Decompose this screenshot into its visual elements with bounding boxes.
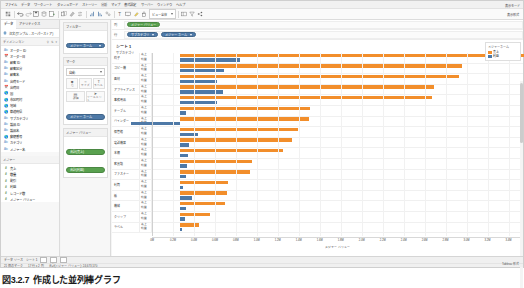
measure-label: 利益 (140, 132, 152, 137)
fix-axes-icon[interactable] (140, 10, 148, 19)
menu-item-dashboard[interactable]: ダッシュボード (55, 1, 80, 9)
presentation-mode-icon[interactable] (124, 10, 132, 19)
save-icon[interactable] (32, 10, 40, 19)
menu-item-server[interactable]: サーバー (139, 1, 155, 9)
bar[interactable] (180, 96, 432, 99)
bar[interactable] (180, 149, 283, 152)
x-axis-tick: 3.2M (485, 239, 491, 242)
bar[interactable] (180, 101, 217, 104)
bar[interactable] (180, 117, 309, 120)
bar[interactable] (180, 69, 224, 72)
bar[interactable] (180, 217, 185, 220)
measure-values-pill[interactable]: 合計(売上) (66, 149, 105, 155)
redo-icon[interactable] (24, 10, 32, 19)
bar[interactable] (180, 164, 187, 167)
bar[interactable] (180, 107, 310, 110)
show-cards-icon[interactable] (180, 10, 188, 19)
marks-tooltip-button[interactable]: ➤ ツールヒント (86, 91, 105, 102)
new-story-icon[interactable] (60, 257, 67, 263)
bar[interactable] (180, 213, 210, 216)
bar[interactable] (180, 191, 227, 194)
sort-icon[interactable]: ⇅ (51, 40, 54, 44)
columns-pill[interactable]: メジャー バリュー (127, 22, 160, 28)
group-members-icon[interactable] (104, 10, 112, 19)
marks-detail-button[interactable]: ▤ 詳細 (66, 91, 85, 102)
marks-size-button[interactable]: ○ サイズ (79, 78, 91, 89)
fit-dropdown[interactable]: ビュー全体 (149, 9, 176, 19)
tab-analytics[interactable]: アナリティクス (16, 20, 43, 28)
rows-shelf-area[interactable]: サブカテゴリ メジャー ネーム (124, 31, 523, 39)
menu-item-window[interactable]: ウィンドウ (155, 1, 174, 9)
bar[interactable] (180, 228, 182, 231)
data-source-item[interactable]: 注文 (サンプル - スーパーストア) (1, 29, 59, 38)
menu-item-map[interactable]: マップ (109, 1, 122, 9)
swap-rows-columns-icon[interactable] (76, 10, 84, 19)
legend-item[interactable]: 利益 (488, 54, 519, 58)
menu-item-analysis[interactable]: 分析 (99, 1, 109, 9)
dimensions-section-controls[interactable]: ⚲ ⇅ ▾ (47, 40, 57, 44)
new-data-source-icon[interactable] (40, 10, 48, 19)
bar[interactable] (180, 128, 298, 131)
start-page-icon[interactable] (4, 10, 12, 19)
share-icon[interactable] (196, 10, 204, 19)
menu-item-data[interactable]: データ (19, 1, 32, 9)
sort-descending-icon[interactable] (96, 10, 104, 19)
sheet-tab-sheet1[interactable]: シート 1 (26, 258, 38, 262)
duplicate-sheet-icon[interactable] (60, 10, 68, 19)
bar[interactable] (180, 207, 186, 210)
filter-pill[interactable]: メジャー ネーム (66, 43, 105, 49)
bar[interactable] (180, 64, 462, 67)
rows-pill[interactable]: メジャー ネーム (161, 32, 196, 38)
menu-item-story[interactable]: ストーリー (80, 1, 99, 9)
bar[interactable] (180, 202, 225, 205)
highlight-icon[interactable] (132, 10, 140, 19)
marks-label-button[interactable]: T ラベル (93, 78, 105, 89)
bar[interactable] (180, 54, 524, 57)
menu-item-format[interactable]: 書式設定 (122, 1, 138, 9)
color-legend-card: メジャー バリュー 合計(売上) 合計(利益) (63, 128, 108, 178)
measure-values-pill[interactable]: 合計(利益) (66, 167, 105, 173)
rows-pill[interactable]: サブカテゴリ (127, 32, 158, 38)
menu-icon[interactable]: ▾ (55, 40, 57, 44)
sheet-tab-datasource[interactable]: データ ソース (4, 258, 23, 262)
new-worksheet-icon[interactable] (40, 257, 47, 263)
clear-sheet-icon[interactable] (68, 10, 76, 19)
toolbar-separator (114, 11, 115, 18)
bar[interactable] (180, 181, 228, 184)
mark-type-dropdown[interactable]: 自動 (66, 68, 105, 76)
tab-data[interactable]: データ (1, 20, 16, 29)
marks-color-button[interactable]: ■ 色 (66, 78, 78, 89)
field-item[interactable]: #メジャー バリュー (1, 196, 59, 202)
bar[interactable] (180, 196, 192, 199)
shelves: 列 メジャー バリュー 行 サブカテゴリ メジャー ネーム (112, 20, 523, 42)
bar[interactable] (180, 85, 434, 88)
bar[interactable] (180, 223, 199, 226)
filter-funnel-icon[interactable] (188, 10, 196, 19)
marks-pill[interactable]: メジャー ネーム (66, 114, 105, 120)
bar[interactable] (180, 58, 240, 61)
menu-bar-right: 表示モード (505, 1, 520, 9)
bar[interactable] (180, 111, 186, 114)
bar[interactable] (180, 90, 223, 93)
bar[interactable] (180, 154, 188, 157)
undo-icon[interactable] (16, 10, 24, 19)
bar[interactable] (180, 143, 189, 146)
abc-icon: Abc (4, 67, 8, 71)
new-worksheet-icon[interactable] (48, 10, 56, 19)
sort-ascending-icon[interactable] (88, 10, 96, 19)
bar[interactable] (180, 186, 183, 189)
bar[interactable] (180, 80, 217, 83)
search-icon[interactable]: ⚲ (47, 40, 49, 44)
menu-item-file[interactable]: ファイル (3, 1, 19, 9)
new-dashboard-icon[interactable] (50, 257, 57, 263)
menu-item-worksheet[interactable]: ワークシート (32, 1, 54, 9)
show-mark-labels-icon[interactable]: T (116, 10, 124, 19)
bar[interactable] (180, 133, 198, 136)
columns-shelf-area[interactable]: メジャー バリュー (124, 21, 523, 29)
presentation-mode-label[interactable]: 表示モード (505, 3, 520, 8)
show-me-label[interactable]: 表示形式 (507, 12, 519, 17)
scrollbar-thumb[interactable] (520, 83, 523, 143)
bar[interactable] (180, 160, 252, 163)
bar[interactable] (180, 175, 186, 178)
menu-item-help[interactable]: ヘルプ (174, 1, 187, 9)
